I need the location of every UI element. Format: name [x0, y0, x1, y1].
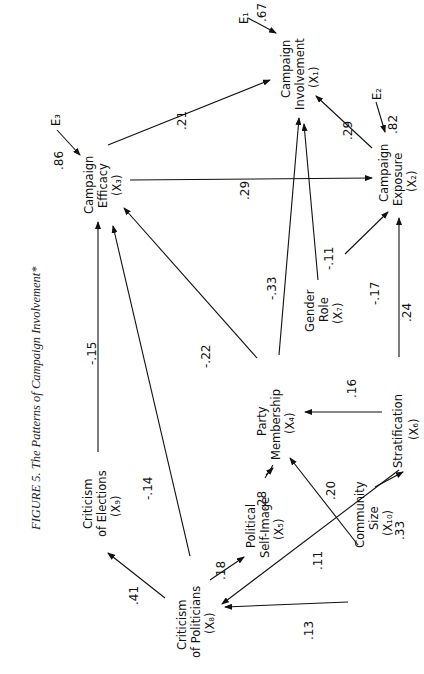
node-campaign-efficacy: Campaign Efficacy (X₃): [82, 156, 124, 214]
node-x10-line1: Community: [353, 481, 367, 548]
coef-e2: .82: [386, 115, 400, 134]
node-gender-role: Gender Role (X₇): [303, 289, 345, 332]
coef-x6-x4: .16: [345, 379, 359, 398]
error-terms: E₁ E₂ E₃: [49, 12, 384, 126]
edge-x7-x2: [345, 212, 388, 254]
node-x9-line1: Criticism: [81, 479, 95, 529]
node-x2-line1: Campaign: [377, 144, 391, 202]
coef-x2-x1: .29: [341, 121, 355, 140]
node-x7-var: (X₇): [331, 303, 345, 324]
node-x2-line2: Exposure: [391, 153, 405, 206]
coef-x8-x9: .41: [127, 586, 141, 605]
path-diagram: FIGURE 5. The Patterns of Campaign Invol…: [0, 0, 424, 674]
coef-x8-x3: -.14: [141, 477, 155, 500]
error-e1: E₁: [237, 12, 251, 24]
error-e2: E₂: [370, 88, 384, 100]
node-stratification: Stratification (X₆): [391, 394, 421, 468]
node-political-self-image: Political Self-Image (X₅): [244, 497, 286, 558]
node-x5-var: (X₅): [272, 519, 286, 540]
coef-x4-x1: -.33: [265, 277, 279, 300]
edge-x4-x1: [279, 118, 299, 355]
coef-x7-x1: -.11: [322, 247, 336, 270]
edge-x3-x2: [130, 178, 372, 180]
coef-x6-x2: .24: [400, 303, 414, 322]
node-community-size: Community Size (X₁₀): [353, 481, 395, 548]
node-x5-line2: Self-Image: [258, 497, 272, 558]
node-x9-line2: of Elections: [95, 470, 109, 537]
node-x1-line2: Involvement: [293, 38, 307, 110]
node-x10-var: (X₁₀): [381, 510, 395, 536]
edge-x8-x3: [113, 226, 190, 556]
node-x8-var: (X₈): [203, 613, 217, 634]
node-x4-var: (X₄): [283, 413, 297, 434]
node-campaign-exposure: Campaign Exposure (X₂): [377, 144, 419, 206]
node-campaign-involvement: Campaign Involvement (X₁): [279, 38, 321, 110]
node-x6-line1: Stratification: [391, 394, 405, 468]
node-criticism-of-politicians: Criticism of Politicians (X₈): [175, 586, 217, 658]
edge-e2-x2: [376, 102, 385, 132]
node-x4-line1: Party: [255, 406, 269, 436]
node-x1-var: (X₁): [307, 67, 321, 88]
edge-x10-x8: [225, 602, 348, 607]
coef-x3-x1: .21: [175, 111, 189, 130]
node-x3-var: (X₃): [110, 175, 124, 196]
node-x5-line1: Political: [244, 504, 258, 548]
figure-title: FIGURE 5. The Patterns of Campaign Invol…: [29, 266, 43, 531]
node-x8-line2: of Politicians: [189, 586, 203, 658]
edge-x7-x1: [304, 124, 318, 280]
node-x4-line2: Membership: [269, 389, 283, 460]
error-e3: E₃: [49, 114, 63, 126]
coef-x10-x4: .20: [324, 481, 338, 500]
node-criticism-of-elections: Criticism of Elections (X₉): [81, 470, 123, 537]
node-x2-var: (X₂): [405, 171, 419, 192]
coef-x10-x8: .13: [302, 621, 316, 640]
coef-x4-x3: -.22: [199, 345, 213, 368]
node-party-membership: Party Membership (X₄): [255, 389, 297, 460]
coef-x10-x6: .33: [393, 521, 407, 540]
coef-x7-x2: -.17: [368, 282, 382, 305]
edge-x5-x4-line: [265, 465, 273, 478]
node-x8-line1: Criticism: [175, 600, 189, 650]
node-x7-line1: Gender: [303, 289, 317, 332]
node-x3-line2: Efficacy: [96, 163, 110, 208]
coef-e1: .67: [255, 3, 269, 22]
node-x3-line1: Campaign: [82, 156, 96, 214]
node-x7-line2: Role: [317, 297, 331, 322]
node-x1-line1: Campaign: [279, 40, 293, 98]
node-x6-var: (X₆): [407, 419, 421, 440]
coef-x9-x3: -.15: [85, 342, 99, 365]
edge-x4-x3: [124, 208, 257, 358]
node-x10-line2: Size: [367, 506, 381, 530]
edge-x10-x4: [290, 458, 358, 545]
edge-x3-x1: [108, 80, 270, 145]
coef-e3: .86: [52, 151, 66, 170]
coef-x6-x8: .11: [311, 551, 325, 570]
coef-x8-x5: .18: [214, 561, 228, 580]
coef-x3-x2: .29: [238, 181, 252, 200]
node-x9-var: (X₉): [109, 496, 123, 517]
